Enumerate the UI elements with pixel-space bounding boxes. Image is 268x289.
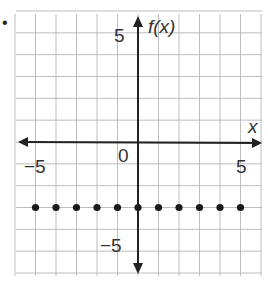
data-point	[175, 204, 182, 211]
data-point	[32, 204, 39, 211]
y-tick-label-neg5: −5	[100, 235, 122, 256]
x-tick-label-neg5: −5	[24, 156, 46, 177]
data-point	[73, 204, 80, 211]
data-point	[196, 204, 203, 211]
data-point	[237, 204, 244, 211]
y-axis-down-arrow-icon	[133, 263, 143, 274]
data-point	[155, 204, 162, 211]
coordinate-plane: f(x) x 5 −5 0 −5 5	[0, 0, 268, 289]
origin-label: 0	[118, 145, 129, 166]
data-point	[52, 204, 59, 211]
x-axis	[18, 137, 262, 148]
data-point	[216, 204, 223, 211]
y-axis-label: f(x)	[148, 16, 175, 37]
x-axis-left-arrow-icon	[18, 137, 28, 147]
y-tick-label-5: 5	[114, 25, 125, 46]
data-point	[93, 204, 100, 211]
x-axis-label: x	[247, 116, 259, 137]
data-point	[134, 204, 141, 211]
y-axis-up-arrow-icon	[133, 16, 143, 27]
data-point	[114, 204, 121, 211]
x-tick-label-5: 5	[236, 156, 247, 177]
